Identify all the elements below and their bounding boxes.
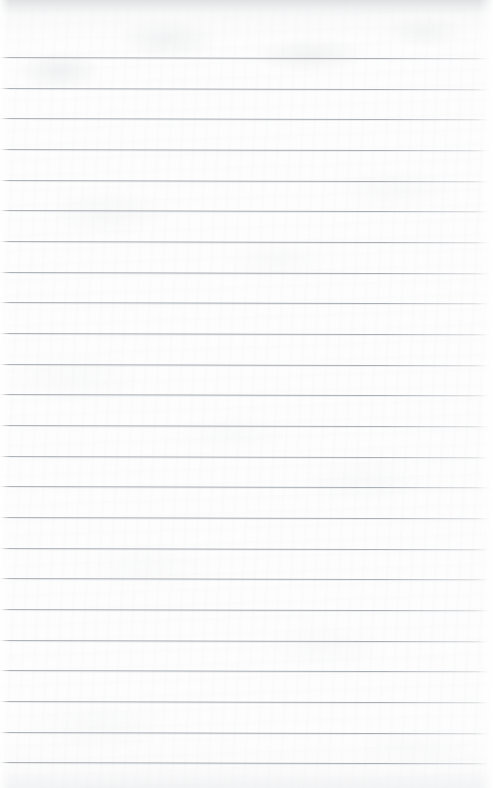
rule-line — [0, 333, 489, 335]
rule-line — [0, 88, 489, 90]
rule-line — [0, 762, 489, 764]
rule-line — [0, 578, 489, 580]
ruled-lines-layer — [0, 0, 493, 788]
rule-line — [0, 394, 489, 396]
rule-line — [0, 57, 489, 59]
rule-line — [0, 302, 489, 304]
rule-line — [0, 210, 489, 212]
rule-line — [0, 640, 489, 642]
rule-line — [0, 272, 489, 274]
rule-line — [0, 732, 489, 734]
rule-line — [0, 609, 489, 611]
rule-line — [0, 180, 489, 182]
rule-line — [0, 701, 489, 703]
scanned-paper-page — [0, 0, 493, 788]
rule-line — [0, 486, 489, 488]
rule-line — [0, 456, 489, 458]
rule-line — [0, 364, 489, 366]
rule-line — [0, 118, 489, 120]
rule-line — [0, 241, 489, 243]
rule-line — [0, 425, 489, 427]
rule-line — [0, 149, 489, 151]
rule-line — [0, 670, 489, 672]
rule-line — [0, 517, 489, 519]
rule-line — [0, 548, 489, 550]
